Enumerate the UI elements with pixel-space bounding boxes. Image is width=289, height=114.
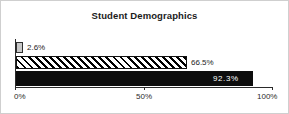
bar-row: 92.3% — [16, 71, 273, 86]
bar-series-2 — [16, 56, 187, 69]
x-tick-mark-0 — [15, 87, 16, 90]
x-tick-mark-50 — [144, 87, 145, 90]
chart-title: Student Demographics — [1, 10, 288, 21]
x-tick-label-50: 50% — [136, 92, 152, 101]
bar-value-label-2: 66.5% — [191, 59, 214, 67]
plot-area: 0% 50% 100% 2.6% 66.5% 92.3% — [16, 39, 273, 87]
chart-figure: Student Demographics 0% 50% 100% 2.6% 66… — [0, 0, 289, 114]
x-tick-mark-100 — [272, 87, 273, 90]
bar-row: 2.6% — [16, 42, 273, 53]
bar-series-1 — [16, 42, 23, 53]
x-tick-label-0: 0% — [14, 92, 26, 101]
x-tick-label-100: 100% — [257, 92, 277, 101]
bar-row: 66.5% — [16, 56, 273, 69]
bar-value-label-3: 92.3% — [213, 75, 239, 83]
bar-value-label-1: 2.6% — [27, 44, 45, 52]
